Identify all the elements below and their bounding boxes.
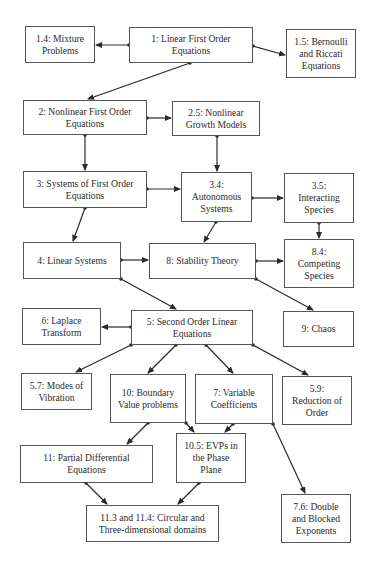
edge-arrow bbox=[225, 424, 233, 432]
node-3: 3: Systems of First Order Equations bbox=[23, 171, 147, 208]
node-7-6: 7.6: Double and Blocked Exponents bbox=[281, 494, 351, 543]
edge-arrow bbox=[73, 208, 85, 241]
node-2-5: 2.5: Nonlinear Growth Models bbox=[172, 101, 260, 136]
node-5: 5: Second Order Linear Equations bbox=[131, 310, 253, 345]
node-3-4: 3.4: Autonomous Systems bbox=[181, 172, 252, 222]
edge-arrow bbox=[76, 345, 131, 372]
edge-arrow bbox=[88, 63, 190, 99]
node-8-4: 8.4: Competing Species bbox=[284, 239, 354, 288]
edge-arrow bbox=[273, 424, 305, 493]
edge-arrow bbox=[253, 345, 308, 375]
node-6: 6: Laplace Transform bbox=[22, 308, 101, 345]
edge-arrow bbox=[148, 345, 176, 373]
edge-arrow bbox=[86, 483, 107, 504]
node-1: 1: Linear First Order Equations bbox=[129, 27, 253, 63]
edge-arrow bbox=[121, 279, 176, 309]
edge-arrow bbox=[206, 345, 233, 373]
node-11: 11: Partial Differential Equations bbox=[20, 445, 153, 483]
node-9: 9: Chaos bbox=[283, 311, 354, 347]
node-5-9: 5.9: Reduction of Order bbox=[282, 376, 352, 425]
node-3-5: 3.5: Interacting Species bbox=[284, 173, 354, 223]
node-4: 4: Linear Systems bbox=[23, 242, 121, 279]
edge-arrow bbox=[127, 423, 148, 444]
node-1-4: 1.4: Mixture Problems bbox=[25, 26, 95, 63]
edge-arrow bbox=[204, 222, 216, 242]
node-8: 8: Stability Theory bbox=[149, 243, 256, 279]
node-2: 2: Nonlinear First Order Equations bbox=[23, 100, 147, 135]
node-1-5: 1.5: Bernoulli and Riccati Equations bbox=[286, 29, 356, 78]
edge-arrow bbox=[186, 423, 194, 432]
node-10-5: 10.5: EVPs in the Phase Plane bbox=[176, 433, 246, 483]
node-11-3: 11.3 and 11.4: Circular and Three-dimens… bbox=[86, 505, 219, 542]
node-7: 7: Variable Coefficients bbox=[195, 374, 273, 424]
concept-map-diagram: 1.4: Mixture Problems1: Linear First Ord… bbox=[0, 0, 375, 563]
edge-arrow bbox=[178, 483, 199, 504]
node-10: 10: Boundary Value problems bbox=[110, 374, 186, 423]
node-5-7: 5.7: Modes of Vibration bbox=[21, 373, 92, 410]
edge-arrow bbox=[253, 46, 285, 55]
